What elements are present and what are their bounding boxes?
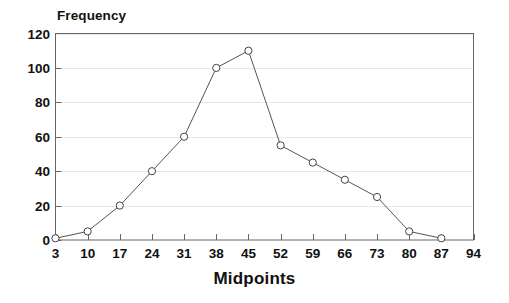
data-point <box>84 228 91 235</box>
x-tick-label: 38 <box>198 246 234 261</box>
y-tick-label: 120 <box>10 26 50 41</box>
y-tick-label: 80 <box>10 95 50 110</box>
data-point <box>148 168 155 175</box>
x-tick-label: 87 <box>423 246 459 261</box>
x-tick-label: 3 <box>38 246 74 261</box>
data-point <box>341 176 348 183</box>
x-tick-label: 94 <box>456 246 492 261</box>
frequency-polyline <box>56 51 442 239</box>
data-point <box>373 193 380 200</box>
x-tick-label: 52 <box>263 246 299 261</box>
y-axis-tick-marks <box>56 69 62 241</box>
x-axis-tick-marks <box>57 234 475 240</box>
x-tick-label: 73 <box>359 246 395 261</box>
gridlines <box>56 35 474 207</box>
x-tick-label: 17 <box>102 246 138 261</box>
y-tick-label: 60 <box>10 129 50 144</box>
data-point <box>116 202 123 209</box>
x-tick-label: 24 <box>134 246 170 261</box>
data-point <box>181 133 188 140</box>
y-axis-title: Frequency <box>57 8 126 23</box>
y-tick-label: 20 <box>10 198 50 213</box>
data-point <box>245 47 252 54</box>
x-tick-label: 66 <box>327 246 363 261</box>
x-tick-label: 31 <box>166 246 202 261</box>
x-tick-label: 59 <box>295 246 331 261</box>
x-tick-label: 45 <box>230 246 266 261</box>
data-point <box>52 235 59 242</box>
data-point <box>277 142 284 149</box>
x-tick-label: 80 <box>391 246 427 261</box>
x-axis-title: Midpoints <box>0 269 509 289</box>
x-tick-label: 10 <box>70 246 106 261</box>
y-tick-label: 40 <box>10 164 50 179</box>
y-tick-label: 100 <box>10 60 50 75</box>
data-point <box>406 228 413 235</box>
data-point <box>213 64 220 71</box>
frequency-polygon-chart: Frequency Midpoints 020406080100120 3101… <box>0 0 509 303</box>
data-point <box>438 235 445 242</box>
data-point <box>309 159 316 166</box>
